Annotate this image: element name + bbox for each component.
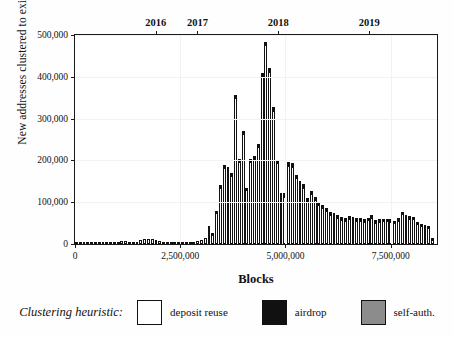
histogram-bar-airdrop-cap [352, 217, 354, 220]
top-axis-year-label: 2018 [268, 17, 289, 28]
histogram-bar [83, 242, 86, 244]
histogram-bar-airdrop-cap [321, 205, 323, 209]
histogram-bar-airdrop-cap [412, 217, 414, 220]
histogram-bar [90, 242, 93, 244]
histogram-bar [253, 156, 256, 244]
legend-swatch-deposit-reuse [137, 300, 162, 325]
histogram-bar [162, 242, 165, 245]
legend-label-airdrop: airdrop [295, 306, 327, 318]
histogram-bar-airdrop-cap [219, 185, 221, 188]
histogram-bar-airdrop-cap [382, 219, 384, 222]
histogram-bar [408, 216, 411, 244]
histogram-bar-airdrop-cap [356, 219, 358, 222]
histogram-bar [397, 218, 400, 244]
histogram-bar [427, 226, 430, 244]
histogram-bar [120, 241, 123, 244]
histogram-bar-airdrop-cap [287, 162, 289, 167]
histogram-bar [94, 242, 97, 244]
histogram-bar [310, 191, 313, 245]
histogram-bar [291, 163, 294, 245]
histogram-bar [181, 242, 184, 244]
histogram-bar [147, 239, 150, 244]
histogram-bar [344, 218, 347, 244]
histogram-bar [412, 217, 415, 244]
histogram-bar [340, 217, 343, 244]
histogram-bar [302, 184, 305, 244]
histogram-bar [189, 242, 192, 244]
histogram-bar-airdrop-cap [272, 107, 274, 112]
y-axis-title: New addresses clustered to existing enti… [16, 0, 28, 156]
gridline-horizontal [75, 35, 437, 36]
histogram-bar-airdrop-cap [299, 182, 301, 187]
histogram-bar-airdrop-cap [344, 219, 346, 222]
histogram-bar-airdrop-cap [303, 184, 305, 189]
histogram-bar [196, 241, 199, 244]
histogram-bar-airdrop-cap [424, 225, 426, 228]
histogram-bar [257, 144, 260, 244]
histogram-bar [336, 215, 339, 244]
histogram-bar-airdrop-cap [405, 215, 407, 218]
histogram-bar [393, 221, 396, 244]
histogram-bar-airdrop-cap [280, 193, 282, 197]
histogram-bar-airdrop-cap [246, 188, 248, 192]
gridline-vertical [391, 35, 392, 244]
histogram-bar [352, 217, 355, 244]
legend-item-airdrop: airdrop [262, 300, 327, 325]
histogram-bar [261, 73, 264, 244]
histogram-bar [139, 240, 142, 244]
histogram-bar [306, 198, 309, 244]
top-axis-tick [197, 31, 198, 35]
histogram-bar [204, 238, 207, 244]
histogram-bar-airdrop-cap [329, 212, 331, 216]
histogram-bar [431, 238, 434, 244]
histogram-bar [208, 226, 211, 244]
histogram-bar [113, 242, 116, 244]
histogram-bar [132, 242, 135, 244]
histogram-bar [424, 225, 427, 244]
top-axis-tick [156, 31, 157, 35]
x-axis-tick-label: 0 [73, 251, 78, 261]
histogram-bar-airdrop-cap [265, 42, 267, 47]
histogram-bar-airdrop-cap [363, 219, 365, 222]
legend-item-self-auth: self-auth. [361, 300, 435, 325]
histogram-bar-airdrop-cap [374, 220, 376, 223]
histogram-bar-airdrop-cap [393, 221, 395, 224]
histogram-bar [109, 242, 112, 244]
legend-label-deposit-reuse: deposit reuse [170, 306, 228, 318]
histogram-bar [325, 208, 328, 244]
y-axis-tick-label: 500,000 [37, 30, 68, 40]
histogram-bar-airdrop-cap [340, 218, 342, 221]
histogram-bar-airdrop-cap [333, 213, 335, 217]
histogram-bar [124, 241, 127, 244]
histogram-bar-airdrop-cap [257, 144, 259, 148]
chart-legend: Clustering heuristic: deposit reuse aird… [0, 295, 454, 329]
histogram-bar-airdrop-cap [359, 218, 361, 221]
histogram-bar-airdrop-cap [409, 216, 411, 219]
histogram-bar [234, 95, 237, 244]
gridline-horizontal [75, 77, 437, 78]
histogram-bar-airdrop-cap [401, 212, 403, 215]
histogram-bar [359, 218, 362, 244]
x-axis-tick-label: 7,500,000 [372, 251, 410, 261]
histogram-bar [245, 188, 248, 244]
histogram-bar [117, 242, 120, 244]
legend-label-self-auth: self-auth. [394, 306, 435, 318]
bar-series-container [75, 35, 437, 244]
histogram-bar [215, 211, 218, 244]
histogram-bar [264, 42, 267, 244]
x-axis-tick-label: 2,500,000 [161, 251, 199, 261]
histogram-bar-airdrop-cap [231, 174, 233, 177]
histogram-bar-airdrop-cap [367, 218, 369, 221]
top-axis-tick [369, 31, 370, 35]
histogram-bar-airdrop-cap [397, 218, 399, 221]
histogram-bar [374, 220, 377, 244]
y-axis-tick [71, 160, 75, 161]
histogram-bar [416, 222, 419, 244]
histogram-bar [86, 242, 89, 244]
histogram-bar [382, 219, 385, 244]
histogram-bar [136, 242, 139, 245]
histogram-bar-airdrop-cap [348, 216, 350, 219]
histogram-bar-airdrop-cap [268, 69, 270, 74]
y-axis-tick-label: 400,000 [37, 72, 68, 82]
histogram-bar [223, 165, 226, 244]
